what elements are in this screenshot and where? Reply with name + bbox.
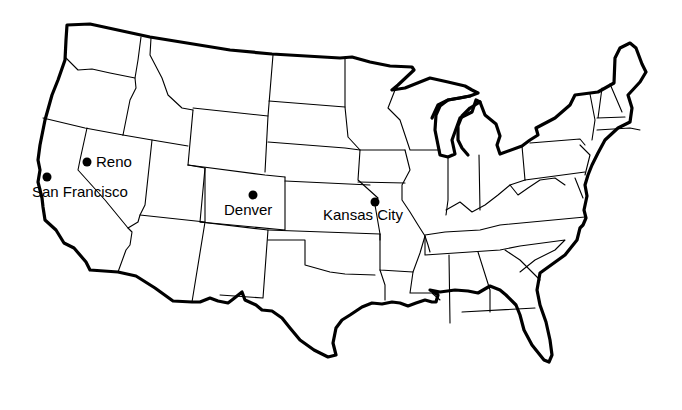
city-marker-san-francisco xyxy=(43,173,52,182)
city-denver[interactable]: Denver xyxy=(224,191,272,219)
city-label-reno: Reno xyxy=(96,153,132,170)
city-kansas-city[interactable]: Kansas City xyxy=(323,198,404,224)
city-marker-denver xyxy=(249,191,258,200)
city-label-kansas-city: Kansas City xyxy=(323,206,404,223)
city-label-denver: Denver xyxy=(224,201,272,218)
us-outline xyxy=(38,24,646,362)
city-marker-reno xyxy=(83,158,92,167)
state-borders xyxy=(43,37,640,323)
us-map: Reno San Francisco Denver Kansas City xyxy=(0,0,682,410)
city-label-san-francisco: San Francisco xyxy=(32,183,128,200)
city-reno[interactable]: Reno xyxy=(83,153,132,170)
city-san-francisco[interactable]: San Francisco xyxy=(32,173,128,201)
